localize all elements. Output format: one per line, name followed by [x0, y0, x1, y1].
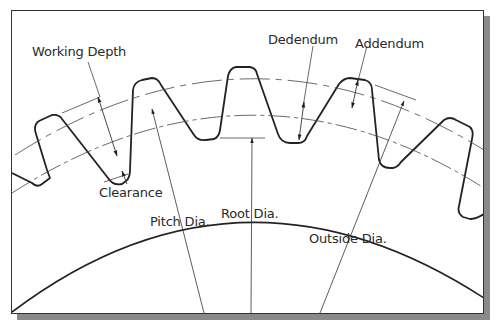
pitch-circle [12, 115, 484, 193]
label-addendum: Addendum [355, 36, 424, 51]
addendum-arrow [352, 80, 358, 108]
label-clearance: Clearance [99, 185, 163, 200]
working-depth-leader [88, 62, 100, 97]
label-root-dia: Root Dia. [221, 206, 279, 221]
root-dia-leader [251, 138, 252, 313]
working-depth-ext-top [62, 97, 100, 113]
outside-circle [15, 79, 484, 155]
label-outside-dia: Outside Dia. [309, 231, 387, 246]
addendum-ext-top [375, 85, 416, 100]
outside-dia-leader [320, 101, 404, 313]
dedendum-arrow [299, 102, 304, 140]
working-depth-arrow [98, 97, 117, 156]
label-working-depth: Working Depth [32, 44, 126, 59]
label-pitch-dia: Pitch Dia. [150, 214, 210, 229]
pitch-dia-leader [152, 109, 204, 313]
label-dedendum: Dedendum [268, 32, 338, 47]
dedendum-leader [303, 46, 313, 107]
root-circle-arc [12, 222, 484, 312]
addendum-leader [358, 46, 367, 81]
gear-teeth-outline [12, 67, 484, 219]
